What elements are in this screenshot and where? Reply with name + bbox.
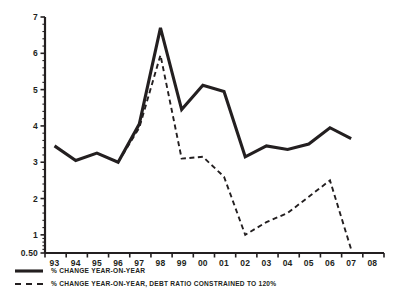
chart-plot-area: 0.501234567 9394959697989900010203040506… [0,0,394,296]
legend-label-solid: % CHANGE YEAR-ON-YEAR [51,267,145,274]
y-axis-tick-label: 2 [33,194,38,204]
chart-legend: % CHANGE YEAR-ON-YEAR % CHANGE YEAR-ON-Y… [14,264,384,290]
y-axis-tick-label: 6 [33,48,38,58]
y-axis-tick-label: 4 [33,121,38,131]
legend-swatch-solid-icon [14,266,44,276]
y-axis-tick-label: 5 [33,85,38,95]
chart-axes [45,17,384,253]
legend-item-solid: % CHANGE YEAR-ON-YEAR [14,264,384,277]
y-axis-tick-label: 7 [33,12,38,22]
y-axis-tick-labels: 0.501234567 [21,12,38,258]
y-axis-tick-label: 0.50 [21,248,38,258]
y-axis-tick-label: 1 [33,230,38,240]
series-line-change-year-on-year [55,28,352,162]
legend-label-dashed: % CHANGE YEAR-ON-YEAR, DEBT RATIO CONSTR… [51,280,276,287]
legend-swatch-dashed-icon [14,279,44,289]
y-axis-tick-label: 3 [33,157,38,167]
series-line-change-year-on-year-debt-constrained [118,55,351,249]
line-chart: 0.501234567 9394959697989900010203040506… [0,0,394,296]
legend-item-dashed: % CHANGE YEAR-ON-YEAR, DEBT RATIO CONSTR… [14,277,384,290]
